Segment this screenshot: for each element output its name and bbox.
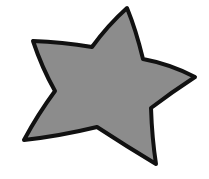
star-icon [0, 0, 209, 179]
star-shape [24, 8, 195, 164]
star-canvas [0, 0, 209, 179]
